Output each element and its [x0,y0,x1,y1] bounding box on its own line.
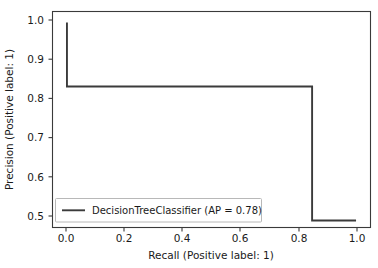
y-tick-label: 0.7 [27,131,44,143]
x-tick-label: 0.2 [116,232,133,244]
y-tick-label: 0.6 [27,171,44,183]
x-tick-labels: 0.0 0.2 0.4 0.6 0.8 1.0 [58,232,366,244]
precision-recall-curve [67,22,356,220]
y-tick-label: 0.5 [27,210,44,222]
y-axis-ticks [49,20,53,216]
x-axis-ticks [66,228,357,232]
x-tick-label: 0.8 [291,232,308,244]
x-tick-label: 1.0 [349,232,366,244]
y-tick-labels: 0.5 0.6 0.7 0.8 0.9 1.0 [27,14,44,222]
chart-canvas: 0.0 0.2 0.4 0.6 0.8 1.0 0.5 0.6 0.7 0.8 … [0,0,378,268]
legend-label: DecisionTreeClassifier (AP = 0.78) [92,205,262,216]
x-axis-label: Recall (Positive label: 1) [148,249,274,261]
y-tick-label: 0.9 [27,53,44,65]
x-tick-label: 0.4 [174,232,191,244]
legend[interactable]: DecisionTreeClassifier (AP = 0.78) [56,199,263,223]
y-tick-label: 1.0 [27,14,44,26]
y-axis-label: Precision (Positive label: 1) [3,49,15,190]
x-tick-label: 0.6 [232,232,249,244]
precision-recall-figure: 0.0 0.2 0.4 0.6 0.8 1.0 0.5 0.6 0.7 0.8 … [0,0,378,268]
y-tick-label: 0.8 [27,92,44,104]
x-tick-label: 0.0 [58,232,75,244]
plot-frame [53,12,371,228]
